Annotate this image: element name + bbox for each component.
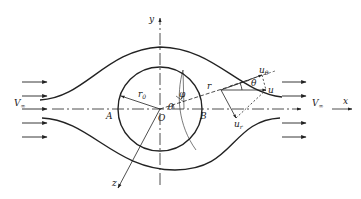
freestream-arrows-left [22,82,47,137]
x-axis-label: x [343,96,348,106]
theta-center-label: θ [168,102,174,112]
point-a-label: A [105,111,113,121]
z-axis [118,109,160,188]
velocity-vectors [221,75,266,118]
freestream-right-label: V∞ [312,98,324,109]
point-b-label: B [199,111,207,121]
phi-label: φ [179,89,186,99]
velocity-theta-label: uθ [259,65,269,76]
streamline-bottom [42,118,280,170]
radius-label: r0 [138,89,146,100]
streamline-top [40,47,282,100]
cylinder-flow-diagram: y x z O A B V∞ V∞ r0 r θ φ u uθ ur θ [0,0,361,199]
velocity-r-label: ur [234,119,244,130]
y-axis-label: y [148,14,155,24]
velocity-label: u [268,85,274,95]
z-axis-label: z [111,178,117,188]
freestream-left-label: V∞ [14,98,26,109]
radial-coord-label: r [207,81,212,91]
theta-vector-label: θ [251,78,257,88]
origin-label: O [158,113,166,123]
freestream-arrows-right [282,82,306,137]
